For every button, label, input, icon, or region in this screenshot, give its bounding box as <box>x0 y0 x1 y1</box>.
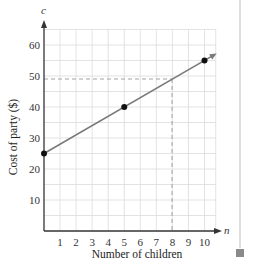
x-tick-label: 5 <box>122 236 128 248</box>
x-axis-arrow-icon <box>214 228 222 234</box>
x-tick-label: 7 <box>154 236 160 248</box>
x-tick-label: 9 <box>186 236 192 248</box>
y-axis-arrow-icon <box>41 20 47 28</box>
y-variable-label: c <box>41 4 46 16</box>
y-tick-label: 40 <box>29 101 41 113</box>
x-tick-label: 4 <box>105 236 111 248</box>
data-point <box>121 104 127 110</box>
y-tick-label: 10 <box>29 194 41 206</box>
y-tick-label: 20 <box>29 163 41 175</box>
y-tick-label: 50 <box>29 70 41 82</box>
y-tick-label: 30 <box>29 132 41 144</box>
x-tick-label: 3 <box>89 236 95 248</box>
x-variable-label: n <box>224 224 230 236</box>
cost-vs-children-chart: c n 102030405060 12345678910 Number of c… <box>0 0 253 273</box>
end-marker-square <box>236 249 244 257</box>
x-tick-label: 10 <box>199 236 211 248</box>
data-point <box>41 151 47 157</box>
x-tick-label: 8 <box>170 236 176 248</box>
x-tick-label: 2 <box>73 236 79 248</box>
data-point <box>202 58 208 64</box>
x-tick-label: 1 <box>57 236 63 248</box>
y-tick-label: 60 <box>29 39 41 51</box>
x-tick-label: 6 <box>138 236 144 248</box>
x-tick-labels: 12345678910 <box>57 236 210 248</box>
y-axis-title: Cost of party ($) <box>7 99 20 176</box>
grid <box>44 30 216 232</box>
y-tick-labels: 102030405060 <box>29 39 41 206</box>
x-axis-title: Number of children <box>92 248 183 260</box>
